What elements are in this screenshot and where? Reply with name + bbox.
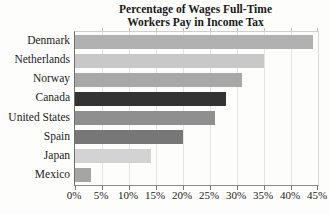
bar-united-states bbox=[75, 111, 215, 125]
category-label-spain: Spain bbox=[0, 127, 70, 146]
top-axis-tick-40 bbox=[291, 28, 292, 31]
x-tick-label-20: 20% bbox=[172, 189, 192, 201]
x-tick-label-40: 40% bbox=[280, 189, 300, 201]
category-label-norway: Norway bbox=[0, 69, 70, 88]
category-label-netherlands: Netherlands bbox=[0, 50, 70, 69]
chart-title: Percentage of Wages Full-Time Workers Pa… bbox=[74, 3, 317, 28]
top-axis-tick-35 bbox=[264, 28, 265, 31]
category-label-canada: Canada bbox=[0, 88, 70, 107]
x-tick-label-25: 25% bbox=[199, 189, 219, 201]
bar-norway bbox=[75, 73, 242, 87]
category-label-mexico: Mexico bbox=[0, 165, 70, 184]
x-tick-label-30: 30% bbox=[226, 189, 246, 201]
x-tick-label-10: 10% bbox=[118, 189, 138, 201]
category-label-japan: Japan bbox=[0, 146, 70, 165]
x-tick-label-15: 15% bbox=[145, 189, 165, 201]
x-tick-label-5: 5% bbox=[94, 189, 109, 201]
category-label-united-states: United States bbox=[0, 108, 70, 127]
top-axis-tick-45 bbox=[317, 28, 318, 31]
x-tick-label-35: 35% bbox=[253, 189, 273, 201]
chart-title-line-2: Workers Pay in Income Tax bbox=[74, 16, 317, 29]
bar-mexico bbox=[75, 168, 91, 182]
x-axis-tick-labels: 0%5%10%15%20%25%30%35%40%45% bbox=[74, 189, 317, 205]
category-label-denmark: Denmark bbox=[0, 31, 70, 50]
top-axis-tick-25 bbox=[210, 28, 211, 31]
plot-area bbox=[74, 31, 319, 186]
gridline-40 bbox=[291, 32, 292, 185]
gridline-35 bbox=[264, 32, 265, 185]
chart-title-line-1: Percentage of Wages Full-Time bbox=[74, 3, 317, 16]
bar-japan bbox=[75, 149, 151, 163]
bar-canada bbox=[75, 92, 226, 106]
bar-chart-figure: Percentage of Wages Full-Time Workers Pa… bbox=[0, 0, 330, 214]
category-axis-labels: DenmarkNetherlandsNorwayCanadaUnited Sta… bbox=[0, 31, 70, 184]
bar-denmark bbox=[75, 35, 313, 49]
x-tick-label-45: 45% bbox=[307, 189, 327, 201]
top-axis-tick-5 bbox=[102, 28, 103, 31]
top-axis-tick-10 bbox=[129, 28, 130, 31]
x-tick-label-0: 0% bbox=[67, 189, 82, 201]
top-axis-tick-20 bbox=[183, 28, 184, 31]
bar-netherlands bbox=[75, 54, 264, 68]
top-axis-tick-30 bbox=[237, 28, 238, 31]
top-axis-tick-15 bbox=[156, 28, 157, 31]
bar-spain bbox=[75, 130, 183, 144]
